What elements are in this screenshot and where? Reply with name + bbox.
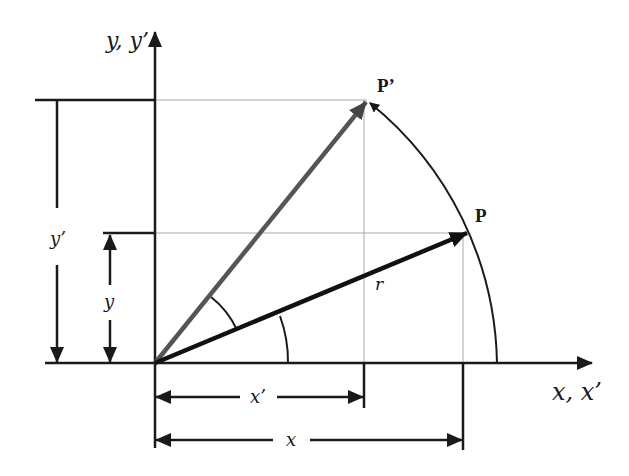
- dim-y-prime-label: y’: [49, 228, 66, 249]
- radius-label: r: [375, 274, 384, 294]
- rotation-diagram: y, y’ x, x’ P’ P r y’ y x’ x: [0, 0, 629, 476]
- dim-x-prime-label: x’: [250, 386, 266, 407]
- angle-arc-phi: [211, 297, 237, 330]
- extension-lines: [35, 100, 463, 450]
- x-axis-label: x, x’: [552, 378, 602, 406]
- vector-p: [155, 233, 467, 363]
- point-p-label: P: [475, 205, 487, 226]
- point-p-prime-label: P’: [377, 75, 395, 96]
- angle-arc-theta: [280, 316, 288, 363]
- guide-lines: [155, 100, 467, 363]
- dim-x-label: x: [286, 429, 296, 450]
- dim-y-label: y: [103, 291, 115, 312]
- y-axis-label: y, y’: [105, 28, 149, 53]
